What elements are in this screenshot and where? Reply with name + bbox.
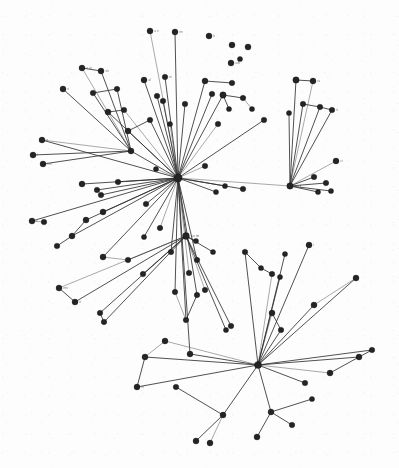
graph-node[interactable] bbox=[311, 174, 317, 180]
graph-node[interactable] bbox=[72, 299, 78, 305]
graph-node[interactable] bbox=[209, 91, 215, 97]
graph-node[interactable] bbox=[258, 265, 263, 270]
graph-node[interactable] bbox=[317, 104, 323, 110]
graph-node[interactable] bbox=[157, 225, 163, 231]
graph-node[interactable] bbox=[125, 128, 131, 134]
graph-node[interactable] bbox=[229, 42, 235, 48]
graph-node[interactable] bbox=[172, 29, 178, 35]
graph-node[interactable] bbox=[183, 233, 190, 240]
graph-node[interactable] bbox=[215, 121, 221, 127]
graph-node[interactable] bbox=[40, 161, 46, 167]
graph-node[interactable] bbox=[167, 121, 172, 126]
graph-node[interactable] bbox=[213, 189, 218, 194]
graph-node[interactable] bbox=[125, 257, 131, 263]
graph-node[interactable] bbox=[327, 370, 333, 376]
graph-node[interactable] bbox=[229, 80, 235, 86]
graph-node[interactable] bbox=[249, 106, 254, 111]
graph-node[interactable] bbox=[261, 117, 267, 123]
graph-node[interactable] bbox=[242, 249, 248, 255]
graph-node[interactable] bbox=[83, 217, 89, 223]
graph-node[interactable] bbox=[60, 86, 66, 92]
graph-node[interactable] bbox=[226, 106, 231, 111]
graph-node[interactable] bbox=[56, 285, 62, 291]
graph-node[interactable] bbox=[315, 189, 320, 194]
graph-node[interactable] bbox=[115, 179, 121, 185]
graph-node[interactable] bbox=[278, 327, 284, 333]
graph-node[interactable] bbox=[220, 412, 226, 418]
graph-node[interactable] bbox=[160, 98, 166, 104]
graph-node[interactable] bbox=[268, 409, 274, 415]
graph-node[interactable] bbox=[147, 28, 153, 34]
graph-node[interactable] bbox=[311, 302, 317, 308]
graph-node[interactable] bbox=[97, 310, 103, 316]
graph-node[interactable] bbox=[369, 347, 375, 353]
graph-node[interactable] bbox=[41, 219, 47, 225]
graph-node[interactable] bbox=[210, 249, 215, 254]
graph-node[interactable] bbox=[30, 152, 36, 158]
graph-node[interactable] bbox=[240, 186, 246, 192]
graph-node[interactable] bbox=[306, 242, 312, 248]
graph-canvas[interactable]: arc tmmu tia nimhurba utstirialniraticir… bbox=[0, 0, 399, 468]
graph-node[interactable] bbox=[121, 107, 127, 113]
graph-node[interactable] bbox=[147, 117, 153, 123]
graph-node[interactable] bbox=[333, 158, 339, 164]
graph-node[interactable] bbox=[105, 109, 111, 115]
graph-node[interactable] bbox=[69, 233, 75, 239]
graph-node[interactable] bbox=[329, 107, 335, 113]
graph-node[interactable] bbox=[79, 65, 85, 71]
graph-node[interactable] bbox=[98, 68, 104, 74]
graph-node[interactable] bbox=[269, 310, 275, 316]
graph-node[interactable] bbox=[100, 254, 106, 260]
graph-node[interactable] bbox=[142, 354, 148, 360]
graph-node[interactable] bbox=[193, 438, 199, 444]
graph-node[interactable] bbox=[143, 201, 149, 207]
graph-node[interactable] bbox=[194, 292, 200, 298]
graph-node[interactable] bbox=[277, 274, 282, 279]
graph-node[interactable] bbox=[300, 101, 306, 107]
graph-node[interactable] bbox=[114, 86, 120, 92]
graph-node[interactable] bbox=[162, 74, 168, 80]
graph-node[interactable] bbox=[193, 238, 198, 243]
graph-node[interactable] bbox=[154, 93, 160, 99]
graph-node[interactable] bbox=[128, 148, 134, 154]
graph-node[interactable] bbox=[172, 289, 178, 295]
graph-node[interactable] bbox=[173, 384, 179, 390]
graph-node[interactable] bbox=[202, 78, 208, 84]
graph-node[interactable] bbox=[220, 92, 226, 98]
graph-node[interactable] bbox=[79, 181, 85, 187]
graph-node[interactable] bbox=[153, 166, 158, 171]
graph-node[interactable] bbox=[206, 33, 212, 39]
graph-node[interactable] bbox=[282, 251, 287, 256]
graph-node[interactable] bbox=[182, 101, 188, 107]
graph-node[interactable] bbox=[302, 380, 308, 386]
graph-node[interactable] bbox=[39, 137, 45, 143]
graph-node[interactable] bbox=[54, 243, 60, 249]
graph-node[interactable] bbox=[286, 110, 291, 115]
graph-node[interactable] bbox=[202, 163, 208, 169]
graph-node[interactable] bbox=[356, 354, 362, 360]
graph-node[interactable] bbox=[141, 77, 147, 83]
graph-node[interactable] bbox=[100, 209, 106, 215]
graph-node[interactable] bbox=[254, 361, 261, 368]
graph-node[interactable] bbox=[90, 90, 96, 96]
graph-node[interactable] bbox=[287, 183, 293, 189]
graph-node[interactable] bbox=[254, 434, 260, 440]
graph-node[interactable] bbox=[141, 234, 146, 239]
graph-node[interactable] bbox=[240, 95, 246, 101]
graph-node[interactable] bbox=[223, 327, 228, 332]
graph-node[interactable] bbox=[309, 396, 314, 401]
graph-node[interactable] bbox=[183, 317, 189, 323]
graph-node[interactable] bbox=[328, 188, 333, 193]
graph-node[interactable] bbox=[310, 78, 316, 84]
graph-node[interactable] bbox=[134, 384, 140, 390]
graph-node[interactable] bbox=[293, 77, 299, 83]
graph-node[interactable] bbox=[140, 271, 146, 277]
graph-node[interactable] bbox=[207, 440, 213, 446]
graph-node[interactable] bbox=[222, 183, 227, 188]
graph-node[interactable] bbox=[168, 249, 174, 255]
graph-node[interactable] bbox=[174, 174, 182, 182]
graph-node[interactable] bbox=[162, 338, 168, 344]
graph-node[interactable] bbox=[194, 257, 200, 263]
graph-node[interactable] bbox=[323, 180, 329, 186]
graph-node[interactable] bbox=[101, 319, 107, 325]
